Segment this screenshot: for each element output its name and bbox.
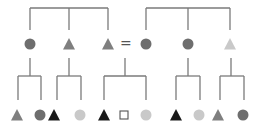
lower-bracket <box>176 58 200 100</box>
circle-icon <box>194 110 205 121</box>
square-icon <box>120 111 128 119</box>
shape-tree-diagram <box>0 0 259 131</box>
triangle-icon <box>98 109 110 121</box>
lower-bracket <box>104 58 146 100</box>
triangle-icon <box>48 109 60 121</box>
triangle-icon <box>212 109 224 121</box>
circle-icon <box>75 110 86 121</box>
triangle-icon <box>224 38 236 50</box>
triangle-icon <box>63 38 75 50</box>
lower-bracket <box>57 58 81 100</box>
lower-bracket <box>18 58 41 100</box>
bottom-row-shapes <box>11 109 249 121</box>
circle-icon <box>141 110 152 121</box>
circle-icon <box>35 110 46 121</box>
circle-icon <box>238 110 249 121</box>
circle-icon <box>25 39 36 50</box>
lower-bracket <box>220 58 244 100</box>
circle-icon <box>183 39 194 50</box>
equals-sign: = <box>120 36 132 50</box>
top-bracket-right-group <box>146 8 230 30</box>
triangle-icon <box>170 109 182 121</box>
top-bracket-left-group <box>30 8 108 30</box>
triangle-icon <box>11 109 23 121</box>
connector-lines <box>18 8 244 100</box>
triangle-icon <box>102 38 114 50</box>
circle-icon <box>141 39 152 50</box>
